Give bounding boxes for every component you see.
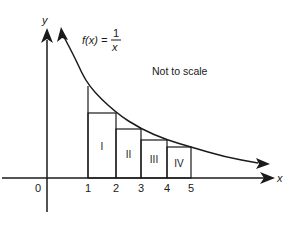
function-label-text: f(x) = <box>82 34 108 46</box>
y-axis-label: y <box>41 14 49 26</box>
curve-arrow-top-icon <box>57 27 68 42</box>
not-to-scale-note: Not to scale <box>152 65 208 77</box>
origin-label: 0 <box>35 182 41 194</box>
function-label: f(x) = 1 x <box>82 27 121 53</box>
x-tick-label: 1 <box>85 182 91 194</box>
x-tick-label: 5 <box>188 182 194 194</box>
rectangles: IIIIIIIV <box>88 86 191 178</box>
x-tick-labels: 12345 <box>85 182 194 194</box>
curve-arrow-end-icon <box>256 158 270 169</box>
diagram-canvas: y x 0 12345 IIIIIIIV f(x) = 1 x Not to s… <box>0 0 289 246</box>
rectangle-label: IV <box>174 158 184 169</box>
fraction-numerator: 1 <box>113 27 119 39</box>
rectangle-label: III <box>150 154 158 165</box>
x-tick-label: 2 <box>113 182 119 194</box>
x-tick-label: 3 <box>138 182 144 194</box>
x-tick-label: 4 <box>164 182 170 194</box>
rectangle-label: II <box>126 149 132 160</box>
fraction-denominator: x <box>111 41 118 53</box>
rectangle-label: I <box>101 141 104 152</box>
x-axis-label: x <box>276 172 283 184</box>
function-curve <box>64 37 258 163</box>
